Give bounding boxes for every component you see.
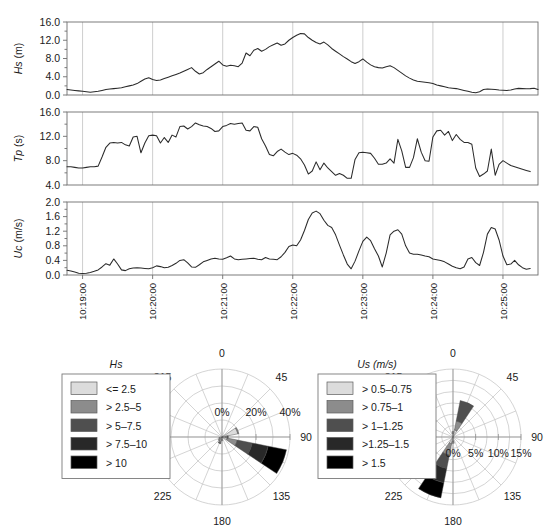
rose-petal-hs-4-seg1 (219, 437, 220, 438)
axis-title-hs: Hs(m) (12, 43, 24, 75)
time-label-group-5: 10:24:00 (428, 283, 439, 320)
rose-compass-label-hs-2: 90 (300, 431, 312, 443)
axis-title-text-hs: Hs(m) (12, 43, 24, 75)
time-label-5: 10:24:00 (428, 283, 439, 320)
time-label-group-3: 10:22:00 (288, 283, 299, 320)
rose-spoke-hs-225 (174, 437, 222, 485)
legend-swatch-us-0 (327, 382, 353, 395)
legend-label-hs-2: > 5–7.5 (106, 420, 141, 432)
plot-frame-uc (67, 202, 538, 275)
legend-swatch-hs-4 (71, 456, 97, 469)
plot-frame-tp (67, 112, 538, 185)
legend-label-hs-4: > 10 (106, 457, 127, 469)
rose-radial-label-hs-2: 40% (279, 406, 300, 418)
legend-label-us-1: > 0.75–1 (362, 401, 403, 413)
series-line-hs (67, 33, 538, 92)
time-label-4: 10:23:00 (358, 283, 369, 320)
ytick-label-uc-5: 2.0 (45, 196, 60, 208)
rose-compass-label-us-5: 225 (385, 490, 403, 502)
legend-title-hs: Hs (110, 358, 124, 370)
legend-label-us-4: > 1.5 (362, 457, 386, 469)
legend-swatch-us-1 (327, 401, 353, 414)
legend-hs: Hs<= 2.5> 2.5–5> 5–7.5> 7.5–10> 10 (62, 358, 170, 479)
time-label-group-2: 10:21:00 (218, 283, 229, 320)
figure-root: 0.04.08.012.016.0Hs(m)4.08.012.016.0Tp(s… (0, 0, 554, 528)
legend-swatch-hs-1 (71, 401, 97, 414)
axis-title-tp: Tp(s) (12, 135, 24, 163)
legend-swatch-hs-2 (71, 419, 97, 432)
legend-swatch-us-3 (327, 438, 353, 451)
rose-radial-label-us-1: 5% (468, 447, 483, 459)
ytick-label-tp-2: 12.0 (40, 130, 61, 142)
ytick-label-uc-2: 0.8 (45, 239, 60, 251)
legend-title-us: Us (m/s) (357, 358, 397, 370)
rose-radial-label-hs-0: 0% (214, 406, 229, 418)
ytick-label-hs-3: 12.0 (40, 34, 61, 46)
legend-label-hs-1: > 2.5–5 (106, 401, 141, 413)
legend-us: Us (m/s)> 0.5–0.75> 0.75–1> 1–1.25>1.25–… (318, 358, 436, 479)
rose-compass-label-us-0: 0 (450, 347, 456, 359)
legend-label-us-2: > 1–1.25 (362, 420, 403, 432)
rose-spoke-us-135 (453, 437, 501, 485)
legend-swatch-us-4 (327, 456, 353, 469)
panel-hs: 0.04.08.012.016.0Hs(m) (12, 16, 538, 101)
ytick-label-uc-1: 0.4 (45, 254, 60, 266)
rose-compass-label-hs-0: 0 (219, 347, 225, 359)
axis-title-text-tp: Tp(s) (12, 135, 24, 163)
legend-label-hs-3: > 7.5–10 (106, 438, 147, 450)
ytick-label-hs-4: 16.0 (40, 16, 61, 28)
ytick-label-hs-0: 0.0 (45, 89, 60, 101)
rose-compass-label-us-2: 90 (531, 431, 543, 443)
legend-label-hs-0: <= 2.5 (106, 383, 136, 395)
rose-petal-hs-5-seg1 (221, 440, 222, 441)
ytick-label-tp-0: 4.0 (45, 179, 60, 191)
time-label-3: 10:22:00 (288, 283, 299, 320)
rose-compass-label-hs-3: 135 (273, 490, 291, 502)
rose-petal-us-2-seg1 (452, 432, 454, 434)
rose-compass-label-us-1: 45 (507, 371, 519, 383)
time-label-1: 10:20:00 (147, 283, 158, 320)
legend-swatch-hs-3 (71, 438, 97, 451)
ytick-label-uc-0: 0.0 (45, 269, 60, 281)
rose-petal-us-3-seg1 (452, 441, 454, 443)
rose-compass-label-hs-4: 180 (213, 515, 231, 527)
legend-swatch-hs-0 (71, 382, 97, 395)
rose-petal-us-0-seg2 (456, 401, 473, 424)
rose-compass-label-hs-1: 45 (276, 371, 288, 383)
axis-title-uc: Uc(m/s) (12, 219, 24, 259)
legend-swatch-us-2 (327, 419, 353, 432)
rose-radial-label-us-3: 15% (510, 447, 531, 459)
axis-title-text-uc: Uc(m/s) (12, 219, 24, 259)
time-label-group-6: 10:25:00 (498, 283, 509, 320)
time-label-group-0: 10:19:00 (77, 283, 88, 320)
rose-radial-label-us-2: 10% (488, 447, 509, 459)
time-label-group-1: 10:20:00 (147, 283, 158, 320)
rose-compass-label-hs-5: 225 (154, 490, 172, 502)
ytick-label-uc-3: 1.2 (45, 225, 60, 237)
rose-compass-label-us-4: 180 (444, 515, 462, 527)
plot-frame-hs (67, 22, 538, 95)
panel-tp: 4.08.012.016.0Tp(s) (12, 106, 538, 191)
legend-label-us-0: > 0.5–0.75 (362, 383, 412, 395)
rose-compass-label-us-3: 135 (504, 490, 522, 502)
ytick-label-tp-1: 8.0 (45, 154, 60, 166)
ytick-label-hs-2: 8.0 (45, 52, 60, 64)
time-label-2: 10:21:00 (218, 283, 229, 320)
time-label-group-4: 10:23:00 (358, 283, 369, 320)
ytick-label-hs-1: 4.0 (45, 70, 60, 82)
ytick-label-uc-4: 1.6 (45, 210, 60, 222)
figure-canvas: 0.04.08.012.016.0Hs(m)4.08.012.016.0Tp(s… (0, 0, 554, 528)
time-label-0: 10:19:00 (77, 283, 88, 320)
ytick-label-tp-3: 16.0 (40, 106, 61, 118)
series-line-uc (67, 211, 530, 273)
time-axis: 10:19:0010:20:0010:21:0010:22:0010:23:00… (77, 275, 508, 320)
panel-uc: 0.00.40.81.21.62.0Uc(m/s) (12, 196, 538, 281)
rose-radial-label-us-0: 0% (445, 447, 460, 459)
rose-radial-label-hs-1: 20% (245, 406, 266, 418)
series-line-tp (67, 123, 530, 178)
rose-petal-hs-6-seg2 (227, 436, 228, 438)
legend-label-us-3: >1.25–1.5 (362, 438, 409, 450)
time-label-6: 10:25:00 (498, 283, 509, 320)
